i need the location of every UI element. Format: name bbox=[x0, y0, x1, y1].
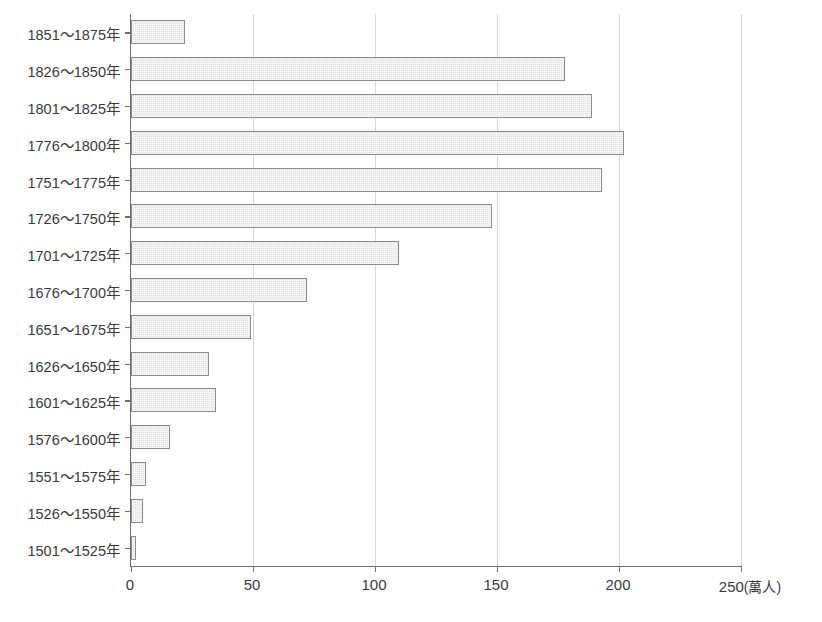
bar-row bbox=[131, 388, 741, 412]
y-axis-tick bbox=[125, 32, 131, 33]
y-axis-tick bbox=[125, 511, 131, 512]
x-axis-tick-value: 250 bbox=[719, 578, 744, 595]
y-axis-tick bbox=[125, 290, 131, 291]
y-axis-label: 1751～1775年 bbox=[0, 171, 120, 192]
y-axis-label: 1526～1550年 bbox=[0, 502, 120, 523]
bar-row bbox=[131, 315, 741, 339]
y-axis-tick bbox=[125, 437, 131, 438]
y-axis-tick bbox=[125, 548, 131, 549]
bar bbox=[131, 462, 146, 486]
y-axis-label: 1626～1650年 bbox=[0, 355, 120, 376]
y-axis-label: 1676～1700年 bbox=[0, 281, 120, 302]
bar bbox=[131, 241, 399, 265]
bar-row bbox=[131, 20, 741, 44]
x-axis-label: 0 bbox=[126, 576, 134, 593]
x-axis-tick bbox=[375, 566, 376, 572]
bar bbox=[131, 425, 170, 449]
bar bbox=[131, 278, 307, 302]
y-axis-label: 1826～1850年 bbox=[0, 60, 120, 81]
y-axis-label: 1776～1800年 bbox=[0, 134, 120, 155]
y-axis-tick bbox=[125, 474, 131, 475]
y-axis-label: 1651～1675年 bbox=[0, 318, 120, 339]
bar-row bbox=[131, 499, 741, 523]
bar bbox=[131, 204, 492, 228]
bar bbox=[131, 131, 624, 155]
x-axis-label: 100 bbox=[361, 576, 386, 593]
bar-row bbox=[131, 278, 741, 302]
bar bbox=[131, 57, 565, 81]
bar-chart: 1851～1875年1826～1850年1801～1825年1776～1800年… bbox=[0, 0, 822, 622]
x-axis-tick bbox=[131, 566, 132, 572]
y-axis-tick bbox=[125, 253, 131, 254]
y-axis-tick bbox=[125, 216, 131, 217]
y-axis-tick bbox=[125, 364, 131, 365]
y-axis-label: 1701～1725年 bbox=[0, 244, 120, 265]
bar bbox=[131, 536, 136, 560]
y-axis-label: 1576～1600年 bbox=[0, 428, 120, 449]
bar-row bbox=[131, 57, 741, 81]
bar-row bbox=[131, 536, 741, 560]
bar bbox=[131, 352, 209, 376]
y-axis-label: 1726～1750年 bbox=[0, 207, 120, 228]
bar-row bbox=[131, 425, 741, 449]
gridline-250 bbox=[741, 14, 742, 566]
bar bbox=[131, 20, 185, 44]
y-axis-label: 1801～1825年 bbox=[0, 97, 120, 118]
bar-row bbox=[131, 241, 741, 265]
bar-row bbox=[131, 168, 741, 192]
bar bbox=[131, 499, 143, 523]
x-axis-tick bbox=[253, 566, 254, 572]
y-axis-label: 1501～1525年 bbox=[0, 539, 120, 560]
bar-row bbox=[131, 131, 741, 155]
x-axis-label: 250(萬人) bbox=[719, 576, 781, 596]
bar-row bbox=[131, 352, 741, 376]
bar-row bbox=[131, 204, 741, 228]
y-axis-tick bbox=[125, 69, 131, 70]
y-axis-tick bbox=[125, 327, 131, 328]
x-axis-label: 150 bbox=[483, 576, 508, 593]
x-axis-tick bbox=[497, 566, 498, 572]
y-axis-label: 1851～1875年 bbox=[0, 23, 120, 44]
y-axis-tick bbox=[125, 180, 131, 181]
x-axis-label: 50 bbox=[244, 576, 261, 593]
x-axis-tick bbox=[619, 566, 620, 572]
y-axis-label: 1601～1625年 bbox=[0, 391, 120, 412]
x-axis-label: 200 bbox=[605, 576, 630, 593]
y-axis-label: 1551～1575年 bbox=[0, 465, 120, 486]
bar bbox=[131, 388, 216, 412]
bar bbox=[131, 168, 602, 192]
y-axis-tick bbox=[125, 143, 131, 144]
bar bbox=[131, 315, 251, 339]
x-axis-tick bbox=[741, 566, 742, 572]
bar bbox=[131, 94, 592, 118]
y-axis-tick bbox=[125, 106, 131, 107]
bar-row bbox=[131, 94, 741, 118]
plot-area bbox=[130, 14, 741, 567]
bar-row bbox=[131, 462, 741, 486]
y-axis-tick bbox=[125, 400, 131, 401]
x-axis-unit-label: (萬人) bbox=[744, 579, 781, 595]
